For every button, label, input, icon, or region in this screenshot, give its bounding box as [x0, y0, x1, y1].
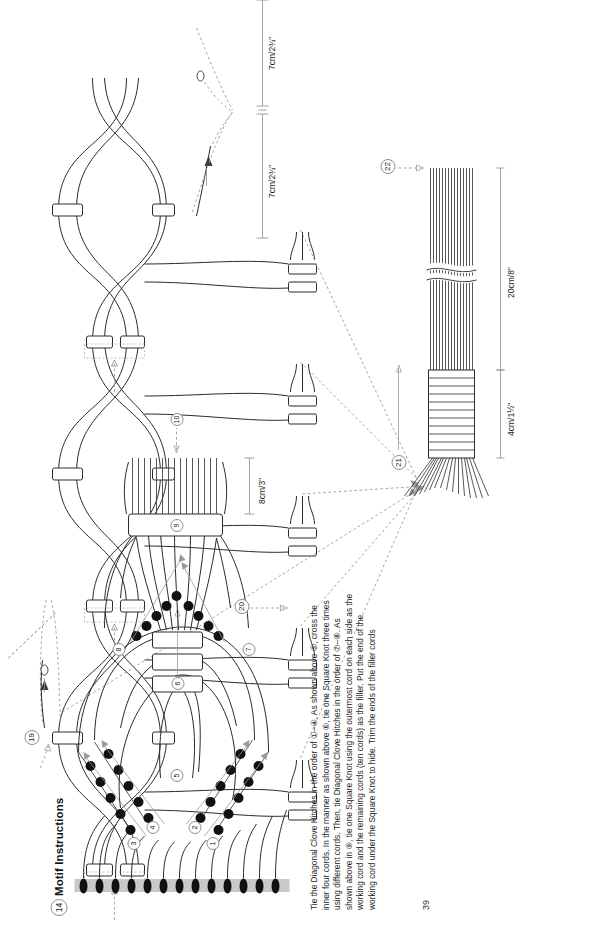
- page-number: 39: [420, 900, 430, 910]
- motif-dimension: [244, 458, 254, 514]
- motif-diagram: [0, 0, 609, 928]
- clove-hitch-rows: [78, 740, 268, 835]
- motif-cords: [83, 810, 286, 878]
- step-marker-8: 8: [112, 643, 125, 656]
- measurement-span-right: 7cm/2¾": [266, 37, 276, 70]
- step-marker-22: 22: [380, 159, 395, 174]
- step-marker-3: 3: [127, 837, 140, 850]
- step-marker-19: 19: [24, 730, 39, 745]
- measurement-span-left: 7cm/2¾": [266, 165, 276, 198]
- step-marker-4: 4: [146, 821, 159, 834]
- step-marker-6: 6: [171, 677, 184, 690]
- step-marker-9: 9: [170, 519, 183, 532]
- step10-leader: [174, 428, 179, 453]
- measurement-motif-fringe: 8cm/3": [256, 478, 266, 504]
- step-marker-2: 2: [188, 821, 201, 834]
- measurement-tassel: 20cm/8": [505, 267, 515, 298]
- motif-fringe: [132, 458, 216, 514]
- book-page: 14 Motif Instructions 1 2 3 4 5 6 7 8 9 …: [0, 0, 609, 928]
- step-marker-21: 21: [391, 455, 406, 470]
- instructions-text: Tie the Diagonal Clove Hitches in the or…: [308, 592, 378, 910]
- step-marker-10: 10: [170, 413, 183, 426]
- step-marker-20: 20: [234, 599, 249, 614]
- instructions-paragraph: Tie the Diagonal Clove Hitches in the or…: [308, 592, 378, 910]
- measurement-wrap: 4cm/1½": [505, 403, 515, 436]
- step-marker-14: 14: [50, 899, 67, 916]
- step-marker-7: 7: [242, 643, 255, 656]
- rotated-page-content: 14 Motif Instructions 1 2 3 4 5 6 7 8 9 …: [0, 0, 609, 928]
- step-marker-1: 1: [206, 837, 219, 850]
- section-title: Motif Instructions: [52, 798, 64, 896]
- step-marker-5: 5: [170, 769, 183, 782]
